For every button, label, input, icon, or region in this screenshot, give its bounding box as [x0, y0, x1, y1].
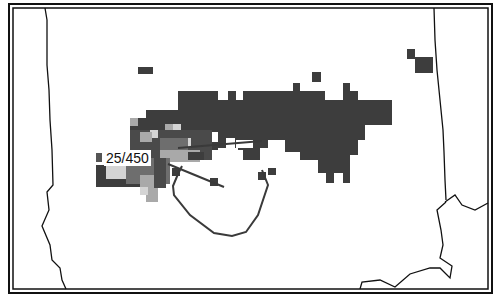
- precipitation-cells: [96, 49, 433, 202]
- storm-id-text: 25/450: [106, 150, 149, 166]
- storm-id-label[interactable]: 25/450: [104, 150, 151, 166]
- map-canvas[interactable]: [0, 0, 501, 298]
- label-marker: [96, 153, 102, 162]
- state-boundaries: [42, 8, 488, 289]
